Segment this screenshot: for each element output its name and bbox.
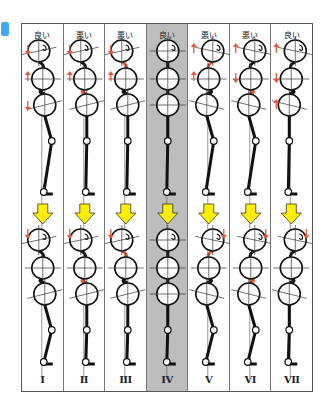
column-vi: 悪い VI [230,24,272,391]
bottom-posture-figure [231,225,271,365]
posture-figure [271,24,312,393]
yellow-down-arrow-icon [33,204,53,224]
column-iii: 悪い III [105,24,147,391]
yellow-down-arrow-icon [199,204,219,224]
column-v: 悪い V [188,24,230,391]
bottom-posture-figure [64,225,104,365]
figure-tag [1,22,9,36]
top-posture-figure [190,36,230,195]
yellow-down-arrow-icon [282,204,302,224]
column-ii: 悪い II [64,24,106,391]
top-posture-figure [64,36,104,195]
top-posture-figure [22,36,62,195]
yellow-down-arrow-icon [158,204,178,224]
column-vii: 良い VII [271,24,312,391]
column-i: 良い I [22,24,64,391]
posture-figure [22,24,64,393]
top-posture-figure [105,36,145,195]
bottom-posture-figure [105,225,145,365]
posture-figure [64,24,106,393]
posture-figure [230,24,272,393]
posture-diagram: 良い I 悪い II 悪い III 良い IV 悪い V 悪い VI 良い VI… [21,23,313,392]
column-iv: 良い IV [147,24,189,391]
top-posture-figure [150,36,186,195]
posture-figure [188,24,230,393]
bottom-posture-figure [272,225,312,365]
top-posture-figure [272,36,312,195]
yellow-down-arrow-icon [116,204,136,224]
bottom-posture-figure [190,225,230,365]
top-posture-figure [231,36,271,195]
bottom-posture-figure [150,225,186,365]
posture-figure [105,24,147,393]
yellow-down-arrow-icon [241,204,261,224]
bottom-posture-figure [22,225,62,365]
yellow-down-arrow-icon [74,204,94,224]
posture-figure [147,24,189,393]
